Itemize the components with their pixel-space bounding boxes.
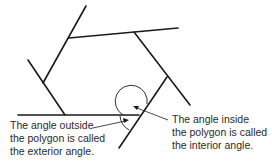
polygon-side <box>43 6 86 83</box>
exterior-line-3: the exterior angle. <box>10 145 105 158</box>
interior-line-1: The angle inside <box>172 113 267 126</box>
exterior-line-2: the polygon is called <box>10 132 105 145</box>
polygon-side <box>134 32 190 105</box>
interior-angle-arc <box>115 85 147 115</box>
polygon-side <box>69 28 178 38</box>
interior-angle-label: The angle inside the polygon is called t… <box>172 113 267 152</box>
exterior-arrowhead <box>123 118 129 123</box>
exterior-angle-arc <box>120 116 129 130</box>
exterior-angle-label: The angle outside the polygon is called … <box>10 119 105 158</box>
interior-line-3: the interior angle. <box>172 139 267 152</box>
polygon-side <box>28 60 65 115</box>
interior-line-2: the polygon is called <box>172 126 267 139</box>
exterior-line-1: The angle outside <box>10 119 105 132</box>
polygon-side <box>119 77 167 148</box>
